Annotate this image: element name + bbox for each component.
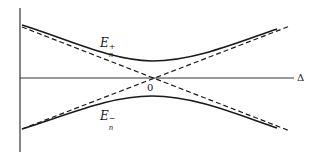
upper-curve-e-plus <box>22 25 277 61</box>
upper-label-base: E <box>100 36 109 50</box>
lower-label-subscript: n <box>109 125 114 132</box>
upper-branch-label: E+n <box>100 37 116 49</box>
upper-label-subscript: n <box>109 52 114 59</box>
origin-label: 0 <box>147 83 153 93</box>
lower-label-base: E <box>100 109 109 123</box>
avoided-crossing-plot <box>0 0 319 159</box>
lower-label-superscript: − <box>109 115 116 123</box>
delta-axis-label: Δ <box>297 73 304 83</box>
lower-branch-label: E−n <box>100 110 116 122</box>
upper-label-superscript: + <box>109 43 116 51</box>
lower-curve-e-minus <box>22 96 277 129</box>
